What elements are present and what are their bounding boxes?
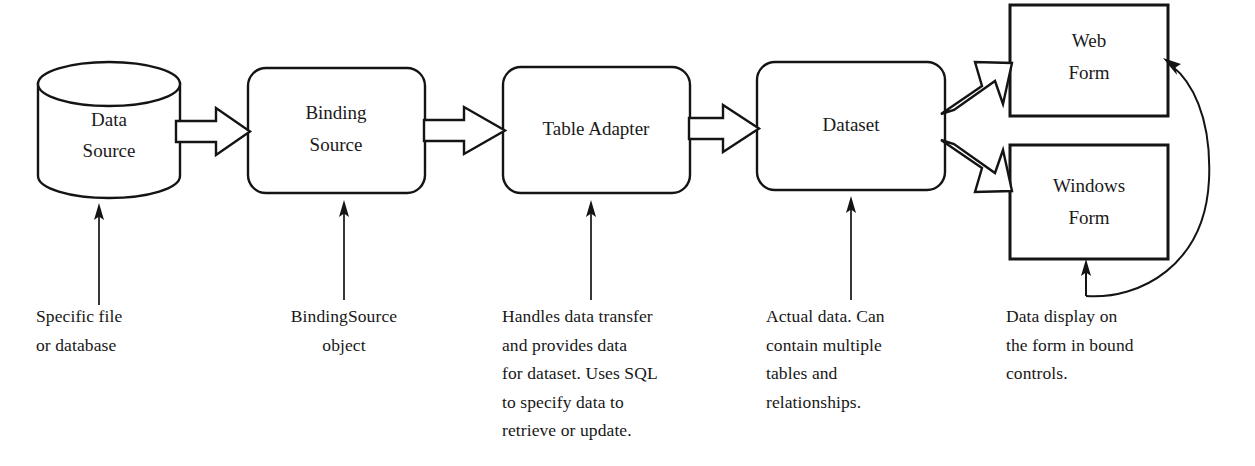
- node-data-source: Data Source: [38, 62, 180, 198]
- arrow-binding-source-to-table-adapter: [424, 107, 505, 154]
- node-binding-source: Binding Source: [248, 68, 425, 193]
- node-web-form: Web Form: [1010, 5, 1168, 116]
- caption-binding-source: BindingSource object: [258, 302, 430, 359]
- arrow-dataset-to-windows-form: [941, 140, 1012, 192]
- windows-form-box: [1010, 145, 1168, 259]
- caption-table-adapter: Handles data transfer and provides data …: [502, 302, 742, 445]
- data-source-label-line2: Source: [83, 140, 136, 161]
- node-dataset: Dataset: [757, 62, 945, 190]
- table-adapter-label: Table Adapter: [543, 118, 650, 139]
- data-source-cylinder-top: [38, 62, 180, 106]
- arrow-data-source-to-binding-source: [176, 108, 250, 155]
- binding-source-label-line1: Binding: [305, 102, 367, 123]
- arrow-table-adapter-to-dataset: [689, 105, 759, 152]
- arrow-dataset-to-web-form: [941, 62, 1012, 114]
- arrow-feedback-into-windows-form: [1081, 259, 1091, 296]
- node-windows-form: Windows Form: [1010, 145, 1168, 259]
- caption-dataset: Actual data. Can contain multiple tables…: [766, 302, 966, 416]
- data-source-label-line1: Data: [91, 109, 127, 130]
- node-table-adapter: Table Adapter: [503, 67, 690, 193]
- windows-form-label-line2: Form: [1068, 207, 1109, 228]
- diagram-root: Data Source Binding Source Table Adapter…: [0, 0, 1255, 466]
- dataset-label: Dataset: [823, 114, 881, 135]
- caption-data-source: Specific file or database: [36, 302, 196, 359]
- windows-form-label-line1: Windows: [1053, 175, 1125, 196]
- binding-source-box: [248, 68, 425, 193]
- web-form-label-line2: Form: [1068, 62, 1109, 83]
- binding-source-label-line2: Source: [310, 134, 363, 155]
- web-form-label-line1: Web: [1072, 30, 1106, 51]
- caption-forms: Data display on the form in bound contro…: [1006, 302, 1206, 388]
- caption-leader-lines: [94, 196, 856, 305]
- web-form-box: [1010, 5, 1168, 116]
